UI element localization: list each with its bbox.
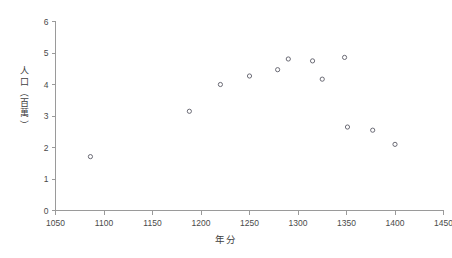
- data-point: [345, 125, 349, 129]
- data-point: [310, 59, 314, 63]
- data-point: [320, 77, 324, 81]
- data-point: [187, 109, 191, 113]
- data-point: [276, 68, 280, 72]
- y-tick-label: 1: [44, 174, 49, 184]
- x-tick-label: 1150: [143, 218, 162, 228]
- data-point: [88, 155, 92, 159]
- y-tick-label: 4: [44, 80, 49, 90]
- data-points-group: [88, 55, 397, 158]
- x-tick-label: 1100: [95, 218, 114, 228]
- y-tick-label: 3: [44, 111, 49, 121]
- y-tick-label: 2: [44, 143, 49, 153]
- data-point: [393, 142, 397, 146]
- scatter-chart: 人 口 （ 百 萬 ） 年分 0123456 10501100115012001…: [0, 0, 452, 258]
- x-tick-label: 1450: [434, 218, 452, 228]
- x-tick-label: 1050: [46, 218, 65, 228]
- data-point: [286, 57, 290, 61]
- x-tick-label: 1250: [240, 218, 259, 228]
- x-tick-label: 1300: [289, 218, 308, 228]
- y-axis: 0123456: [44, 17, 56, 216]
- x-tick-label: 1400: [386, 218, 405, 228]
- data-point: [247, 74, 251, 78]
- y-tick-label: 6: [44, 17, 49, 27]
- plot-area: 0123456 10501100115012001250130013501400…: [0, 0, 452, 258]
- y-tick-label: 0: [44, 206, 49, 216]
- x-tick-label: 1200: [192, 218, 211, 228]
- data-point: [342, 55, 346, 59]
- x-axis: 105011001150120012501300135014001450: [46, 211, 452, 228]
- data-point: [371, 128, 375, 132]
- data-point: [218, 82, 222, 86]
- y-tick-label: 5: [44, 48, 49, 58]
- x-tick-label: 1350: [337, 218, 356, 228]
